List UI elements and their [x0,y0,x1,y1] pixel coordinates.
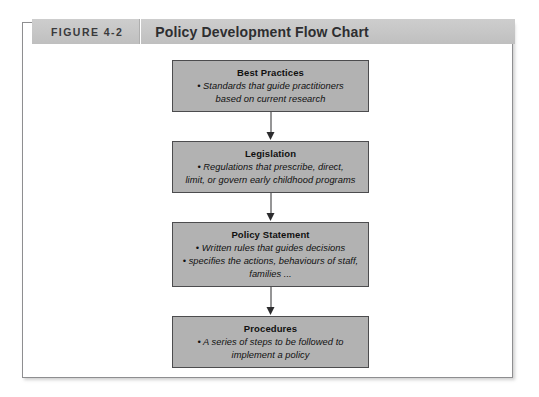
arrow-policy-statement-to-procedures [172,287,369,316]
arrow-head-icon [266,132,274,140]
flow-node-bullet-line: • Regulations that prescribe, direct, [177,161,364,174]
flow-node-bullet-line: • A series of steps to be followed to [177,336,364,349]
flow-node-legislation: Legislation • Regulations that prescribe… [172,141,369,193]
arrow-head-icon [266,307,274,315]
flow-node-bullets: • Standards that guide practitioners bas… [177,80,364,105]
flow-node-title: Legislation [177,147,364,160]
arrow-head-icon [266,213,274,221]
flow-node-bullets: • Written rules that guides decisions • … [177,242,364,280]
arrow-stem [270,193,271,215]
flow-node-bullet-line: • Written rules that guides decisions [177,242,364,255]
arrow-stem [270,112,271,134]
flow-node-bullet-line: based on current research [177,93,364,106]
flow-node-title: Procedures [177,322,364,335]
figure-title: Policy Development Flow Chart [141,24,369,40]
arrow-legislation-to-policy-statement [172,193,369,222]
flow-node-bullets: • A series of steps to be followed to im… [177,336,364,361]
flow-node-title: Policy Statement [177,228,364,241]
arrow-best-practices-to-legislation [172,112,369,141]
figure-number-label: FIGURE 4-2 [32,26,123,38]
flow-node-procedures: Procedures • A series of steps to be fol… [172,316,369,368]
flow-node-bullet-line: implement a policy [177,349,364,362]
flow-node-bullet-line: families ... [177,268,364,281]
flow-node-bullets: • Regulations that prescribe, direct, li… [177,161,364,186]
flow-chart: Best Practices • Standards that guide pr… [172,60,369,368]
flow-node-policy-statement: Policy Statement • Written rules that gu… [172,222,369,287]
flow-node-bullet-line: • specifies the actions, behaviours of s… [177,255,364,268]
flow-node-title: Best Practices [177,66,364,79]
figure-header-bar: FIGURE 4-2 Policy Development Flow Chart [32,19,515,44]
flow-node-bullet-line: limit, or govern early childhood program… [177,174,364,187]
arrow-stem [270,287,271,309]
flow-node-bullet-line: • Standards that guide practitioners [177,80,364,93]
flow-node-best-practices: Best Practices • Standards that guide pr… [172,60,369,112]
